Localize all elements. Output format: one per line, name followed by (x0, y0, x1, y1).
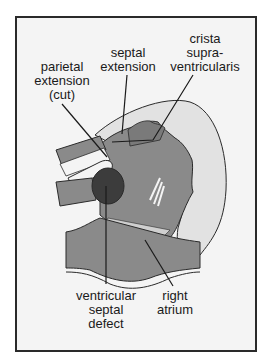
lower-vessel (56, 178, 96, 206)
label-parietal-extension: parietal extension (cut) (24, 60, 100, 102)
label-right-atrium: right atrium (150, 289, 200, 317)
label-septal-extension: septal extension (95, 46, 161, 74)
label-ventricular-septal-defect: ventricular septal defect (66, 289, 146, 331)
label-crista-supraventricularis: crista supra- ventricularis (160, 32, 250, 74)
ventricular-septal-defect (92, 168, 124, 204)
